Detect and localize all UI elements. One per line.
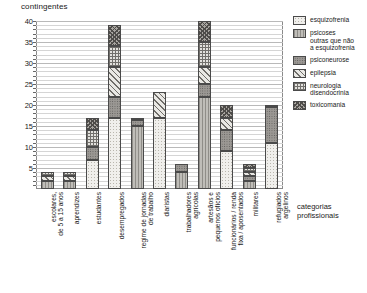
bar bbox=[86, 118, 99, 189]
x-axis-title: categoriasprofissionais bbox=[297, 202, 339, 220]
y-tick-mark bbox=[33, 88, 36, 89]
legend-swatch bbox=[293, 16, 306, 25]
x-category-label: funcionários / renda fixa / aposentados bbox=[230, 192, 245, 250]
x-category-label: trabalhadores agrícolas bbox=[185, 192, 200, 232]
y-tick-mark bbox=[33, 101, 36, 102]
y-tick-mark bbox=[33, 176, 36, 177]
y-tick-mark bbox=[33, 105, 36, 106]
bar bbox=[175, 164, 188, 189]
y-tick-mark bbox=[33, 59, 36, 60]
y-axis-title: contingentes bbox=[21, 2, 68, 11]
bar-segment bbox=[243, 181, 256, 189]
bar-segment bbox=[243, 176, 256, 180]
bar-segment bbox=[63, 181, 76, 189]
y-tick-mark bbox=[33, 55, 36, 56]
y-tick-label: 25 bbox=[17, 80, 33, 89]
bar-segment bbox=[86, 147, 99, 160]
legend-label: psiconeurose bbox=[310, 56, 349, 64]
y-tick-mark bbox=[33, 25, 36, 26]
legend-label: psicosesoutras que nãoa esquizofrenia bbox=[310, 29, 355, 52]
x-category-label: desempregados bbox=[118, 192, 125, 239]
bar bbox=[108, 25, 121, 189]
y-tick-label: 15 bbox=[17, 122, 33, 131]
y-tick-mark bbox=[33, 185, 36, 186]
y-tick-mark bbox=[33, 151, 36, 152]
bar-segment bbox=[198, 67, 211, 84]
y-tick-mark bbox=[33, 126, 36, 127]
bar-segment bbox=[265, 143, 278, 189]
bar bbox=[243, 164, 256, 189]
bar-segment bbox=[153, 92, 166, 117]
bar-segment bbox=[153, 118, 166, 189]
x-category-label: diaristas bbox=[163, 192, 170, 217]
bar-segment bbox=[131, 118, 144, 120]
bar-segment bbox=[41, 172, 54, 176]
bar-segment bbox=[63, 176, 76, 180]
bar-segment bbox=[131, 126, 144, 189]
x-category-label: artesãos e pequenos ofícios bbox=[207, 192, 222, 242]
y-tick-label: 35 bbox=[17, 38, 33, 47]
y-tick-label: 10 bbox=[17, 143, 33, 152]
bar-segment bbox=[198, 21, 211, 42]
y-tick-mark bbox=[33, 38, 36, 39]
bar-segment bbox=[198, 84, 211, 97]
bar-segment bbox=[220, 130, 233, 151]
y-tick-mark bbox=[33, 50, 36, 51]
y-tick-mark bbox=[33, 63, 36, 64]
y-tick-mark bbox=[33, 42, 36, 43]
bar bbox=[63, 172, 76, 189]
legend-swatch bbox=[293, 101, 306, 110]
bar-segment bbox=[198, 97, 211, 189]
legend-item: toxicomania bbox=[293, 101, 367, 110]
y-tick-mark bbox=[33, 67, 36, 68]
bar-segment bbox=[108, 25, 121, 46]
x-category-label: refugiados argelinos bbox=[275, 192, 290, 223]
y-tick-mark bbox=[33, 147, 36, 148]
legend-swatch bbox=[293, 56, 306, 65]
bar-segment bbox=[198, 42, 211, 67]
legend-item: psiconeurose bbox=[293, 56, 367, 65]
y-tick-mark bbox=[33, 97, 36, 98]
legend-item: neurologiadisendocrinia bbox=[293, 82, 367, 97]
y-tick-mark bbox=[33, 118, 36, 119]
bar-segment bbox=[175, 172, 188, 189]
y-tick-label: 30 bbox=[17, 59, 33, 68]
bar-segment bbox=[265, 105, 278, 107]
x-category-label: regime de jornadas de trabalho bbox=[140, 192, 155, 248]
bar-segment bbox=[108, 67, 121, 96]
bar-segment bbox=[108, 46, 121, 67]
bar-segment bbox=[41, 181, 54, 189]
y-tick-label: 20 bbox=[17, 101, 33, 110]
bar-segment bbox=[86, 118, 99, 131]
x-category-label: militares bbox=[252, 192, 259, 217]
bar bbox=[131, 118, 144, 189]
legend-label: epilepsia bbox=[310, 69, 336, 77]
legend-swatch bbox=[293, 82, 306, 91]
y-tick-mark bbox=[33, 84, 36, 85]
legend-label: neurologiadisendocrinia bbox=[310, 82, 349, 97]
y-tick-mark bbox=[33, 143, 36, 144]
y-tick-mark bbox=[33, 139, 36, 140]
bar-segment bbox=[41, 176, 54, 180]
y-tick-mark bbox=[33, 92, 36, 93]
y-tick-mark bbox=[33, 113, 36, 114]
y-tick-label: 40 bbox=[17, 17, 33, 26]
legend: esquizofreniapsicosesoutras que nãoa esq… bbox=[293, 16, 367, 114]
bar-segment bbox=[108, 97, 121, 118]
bar bbox=[153, 92, 166, 189]
bars-layer bbox=[36, 21, 283, 189]
bar bbox=[265, 105, 278, 189]
legend-item: psicosesoutras que nãoa esquizofrenia bbox=[293, 29, 367, 52]
y-tick-label: 5 bbox=[17, 164, 33, 173]
bar-segment bbox=[131, 120, 144, 126]
x-category-label: escolares, de 5 a 15 anos bbox=[50, 192, 65, 236]
y-tick-mark bbox=[33, 21, 36, 22]
chart-root: contingentes 510152025303540 escolares, … bbox=[0, 0, 367, 293]
bar-segment bbox=[265, 107, 278, 143]
y-tick-mark bbox=[33, 29, 36, 30]
y-tick-mark bbox=[33, 134, 36, 135]
legend-swatch bbox=[293, 69, 306, 78]
y-tick-mark bbox=[33, 46, 36, 47]
plot-area bbox=[36, 21, 283, 189]
x-category-label: estudantes bbox=[95, 192, 102, 224]
